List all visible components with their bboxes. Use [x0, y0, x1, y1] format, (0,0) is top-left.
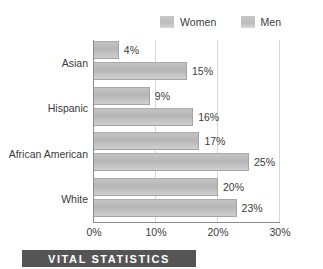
bar-value-african-american-men: 25%	[249, 156, 275, 168]
bar-asian-women	[94, 41, 119, 59]
legend-swatch-women	[160, 16, 174, 28]
legend-label-women: Women	[180, 16, 217, 28]
bar-row-asian-women: 4%	[94, 41, 119, 59]
bar-row-hispanic-men: 16%	[94, 108, 193, 126]
bar-group-african-american: African American 17% 25%	[94, 131, 280, 177]
bar-value-asian-men: 15%	[187, 65, 213, 77]
bar-african-american-men	[94, 153, 249, 171]
category-label-african-american: African American	[9, 148, 88, 160]
bar-group-hispanic: Hispanic 9% 16%	[94, 86, 280, 132]
bar-asian-men	[94, 62, 187, 80]
legend-swatch-men	[241, 16, 255, 28]
bar-row-african-american-women: 17%	[94, 132, 199, 150]
bar-value-hispanic-men: 16%	[193, 111, 219, 123]
bar-white-men	[94, 199, 237, 217]
bar-row-hispanic-women: 9%	[94, 87, 150, 105]
banner-label: VITAL STATISTICS	[48, 253, 170, 265]
bar-african-american-women	[94, 132, 199, 150]
vital-statistics-banner: VITAL STATISTICS	[22, 250, 196, 267]
category-label-asian: Asian	[62, 57, 88, 69]
bar-white-women	[94, 178, 218, 196]
plot-area: Asian 4% 15% Hispanic 9% 16% Afr	[93, 40, 280, 223]
xtick-label-20: 20%	[207, 226, 228, 238]
xtick-label-10: 10%	[145, 226, 166, 238]
category-label-hispanic: Hispanic	[48, 102, 88, 114]
bar-row-asian-men: 15%	[94, 62, 187, 80]
legend-label-men: Men	[261, 16, 282, 28]
bar-row-african-american-men: 25%	[94, 153, 249, 171]
chart-legend: Women Men	[160, 14, 281, 30]
bar-row-white-women: 20%	[94, 178, 218, 196]
bar-group-white: White 20% 23%	[94, 177, 280, 223]
legend-item-women: Women	[160, 16, 217, 28]
bar-value-hispanic-women: 9%	[150, 90, 170, 102]
bar-group-asian: Asian 4% 15%	[94, 40, 280, 86]
category-label-white: White	[61, 193, 88, 205]
bar-hispanic-men	[94, 108, 193, 126]
vital-statistics-bar-chart: Women Men Asian 4% 15% Hispanic	[0, 0, 323, 269]
bar-value-asian-women: 4%	[119, 44, 139, 56]
legend-item-men: Men	[241, 16, 282, 28]
bar-row-white-men: 23%	[94, 199, 237, 217]
xtick-label-30: 30%	[269, 226, 290, 238]
bar-value-african-american-women: 17%	[199, 135, 225, 147]
bar-value-white-women: 20%	[218, 181, 244, 193]
xtick-label-0: 0%	[86, 226, 101, 238]
bar-value-white-men: 23%	[237, 202, 263, 214]
bar-hispanic-women	[94, 87, 150, 105]
